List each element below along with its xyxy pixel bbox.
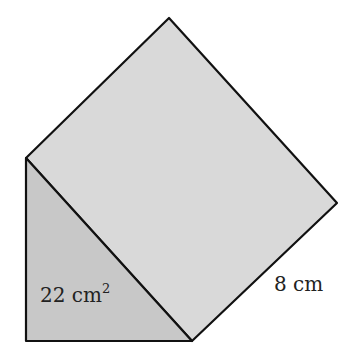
length-label: 8 cm <box>274 272 323 296</box>
prism-diagram: 22 cm2 8 cm <box>0 0 354 350</box>
area-label: 22 cm2 <box>40 281 110 307</box>
